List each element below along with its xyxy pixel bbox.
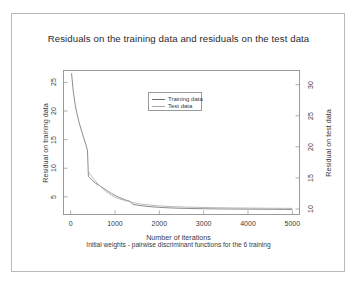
tick-value: 5	[50, 195, 57, 199]
y-axis-right-tick-label: 30	[302, 80, 318, 90]
y-axis-left-tick-label: 20	[45, 106, 61, 116]
chart-title: Residuals on the training data and resid…	[0, 33, 357, 44]
x-axis-tick-label: 5000	[272, 220, 312, 227]
x-axis-tick-label: 2000	[139, 220, 179, 227]
tick-value: 30	[307, 81, 314, 89]
x-axis-tick-label: 1000	[95, 220, 135, 227]
tick-value: 20	[50, 107, 57, 115]
y-axis-right-tick-label: 10	[302, 204, 318, 214]
legend-swatch-test-data	[152, 106, 165, 107]
x-axis-tick-label: 0	[51, 220, 91, 227]
x-axis-tick-label: 4000	[228, 220, 268, 227]
series-line-test-data	[88, 172, 292, 209]
y-axis-left-tick-label: 25	[45, 77, 61, 87]
x-axis-subtitle: Initial weights - pairwise discriminant …	[0, 241, 357, 248]
y-axis-left-tick-label: 10	[45, 163, 61, 173]
y-axis-right-tick-label: 15	[302, 173, 318, 183]
tick-value: 25	[307, 112, 314, 120]
y-axis-left-tick-label: 15	[45, 135, 61, 145]
tick-value: 10	[50, 164, 57, 172]
tick-value: 10	[307, 205, 314, 213]
tick-value: 20	[307, 143, 314, 151]
x-axis-tick-label: 3000	[184, 220, 224, 227]
y-axis-left-tick-label: 5	[45, 192, 61, 202]
tick-value: 25	[50, 79, 57, 87]
chart-legend: Training data Test data	[148, 92, 202, 111]
y-axis-right-title-label: Residual on test data	[324, 109, 333, 177]
y-axis-right-tick-label: 25	[302, 111, 318, 121]
y-axis-right-title: Residual on test data	[322, 70, 334, 215]
tick-value: 15	[50, 136, 57, 144]
legend-label-test-data: Test data	[168, 103, 192, 109]
y-axis-right-tick-label: 20	[302, 142, 318, 152]
tick-value: 15	[307, 174, 314, 182]
legend-item-test-data: Test data	[152, 102, 192, 110]
legend-swatch-training-data	[152, 99, 165, 100]
